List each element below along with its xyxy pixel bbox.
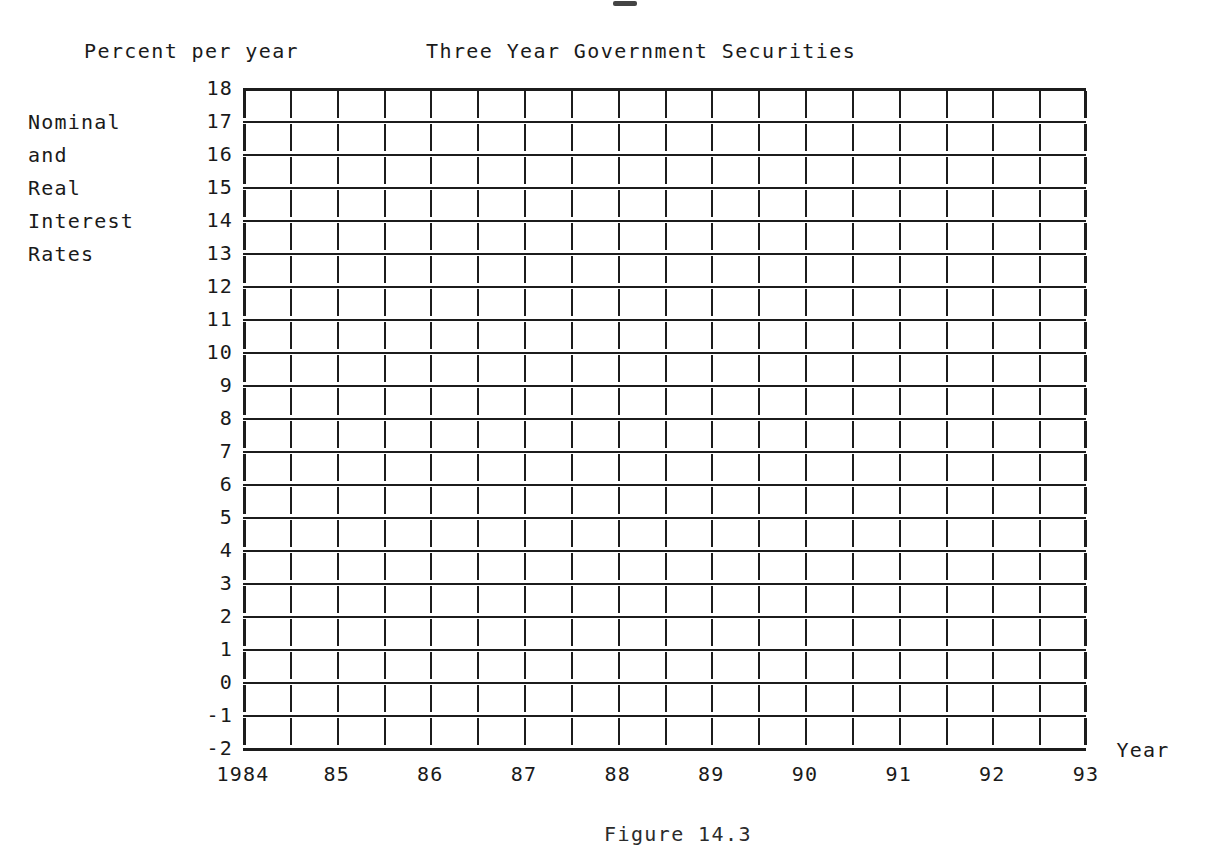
y-axis-tick-label: 16 (175, 142, 233, 166)
gridline-vertical-segment (852, 355, 854, 382)
gridline-vertical-segment (758, 619, 760, 646)
gridline-vertical-segment (337, 190, 339, 217)
x-axis-tick-label: 93 (1073, 762, 1099, 786)
gridline-vertical-segment (243, 685, 246, 712)
gridline-vertical-segment (290, 355, 292, 382)
gridline-vertical-segment (618, 685, 620, 712)
gridline-vertical-segment (711, 685, 713, 712)
gridline-horizontal (243, 715, 1086, 717)
gridline-vertical-segment (992, 256, 994, 283)
gridline-vertical-segment (243, 553, 246, 580)
gridline-vertical-segment (571, 388, 573, 415)
gridline-vertical-segment (1084, 223, 1087, 250)
gridline-vertical-segment (430, 223, 432, 250)
gridline-vertical-segment (571, 586, 573, 613)
gridline-vertical-segment (946, 190, 948, 217)
gridline-vertical-segment (758, 355, 760, 382)
y-axis-tick-label: 3 (175, 571, 233, 595)
gridline-vertical-segment (1084, 718, 1087, 745)
gridline-vertical-segment (1084, 619, 1087, 646)
gridline-vertical-segment (1084, 289, 1087, 316)
gridline-vertical-segment (571, 454, 573, 481)
gridline-vertical-segment (1039, 520, 1041, 547)
gridline-vertical-segment (665, 157, 667, 184)
gridline-vertical-segment (805, 223, 807, 250)
gridline-horizontal (243, 121, 1086, 123)
gridline-vertical-segment (665, 652, 667, 679)
y-axis-tick-label: 7 (175, 439, 233, 463)
gridline-vertical-segment (946, 355, 948, 382)
gridline-vertical-segment (852, 322, 854, 349)
gridline-vertical-segment (243, 520, 246, 547)
gridline-horizontal (243, 748, 1086, 751)
gridline-vertical-segment (711, 388, 713, 415)
figure-caption: Figure 14.3 (604, 822, 752, 846)
gridline-vertical-segment (430, 487, 432, 514)
gridline-vertical-segment (946, 223, 948, 250)
gridline-vertical-segment (1039, 388, 1041, 415)
gridline-vertical-segment (243, 586, 246, 613)
gridline-vertical-segment (337, 355, 339, 382)
gridline-vertical-segment (618, 289, 620, 316)
gridline-vertical-segment (992, 487, 994, 514)
gridline-vertical-segment (711, 454, 713, 481)
gridline-vertical-segment (243, 487, 246, 514)
gridline-vertical-segment (852, 553, 854, 580)
gridline-vertical-segment (430, 718, 432, 745)
gridline-vertical-segment (524, 553, 526, 580)
gridline-vertical-segment (946, 487, 948, 514)
gridline-vertical-segment (571, 685, 573, 712)
gridline-vertical-segment (899, 718, 901, 745)
gridline-vertical-segment (946, 520, 948, 547)
gridline-vertical-segment (477, 586, 479, 613)
gridline-vertical-segment (477, 553, 479, 580)
gridline-horizontal (243, 319, 1086, 321)
gridline-vertical-segment (290, 454, 292, 481)
gridline-vertical-segment (992, 454, 994, 481)
gridline-vertical-segment (290, 586, 292, 613)
gridline-vertical-segment (571, 520, 573, 547)
gridline-vertical-segment (992, 619, 994, 646)
gridline-vertical-segment (1084, 355, 1087, 382)
gridline-vertical-segment (805, 355, 807, 382)
gridline-vertical-segment (758, 256, 760, 283)
gridline-vertical-segment (1039, 619, 1041, 646)
gridline-horizontal (243, 286, 1086, 288)
gridline-vertical-segment (852, 685, 854, 712)
gridline-vertical-segment (337, 619, 339, 646)
gridline-vertical-segment (899, 454, 901, 481)
gridline-vertical-segment (899, 586, 901, 613)
gridline-vertical-segment (477, 619, 479, 646)
gridline-vertical-segment (477, 256, 479, 283)
x-axis-name: Year (1117, 738, 1170, 762)
side-caption-line: Interest (28, 205, 134, 238)
gridline-vertical-segment (852, 586, 854, 613)
gridline-vertical-segment (899, 223, 901, 250)
gridline-vertical-segment (711, 553, 713, 580)
gridline-vertical-segment (711, 190, 713, 217)
gridline-vertical-segment (758, 652, 760, 679)
gridline-vertical-segment (899, 388, 901, 415)
gridline-vertical-segment (524, 388, 526, 415)
gridline-vertical-segment (899, 553, 901, 580)
gridline-vertical-segment (477, 190, 479, 217)
y-axis-tick-label: -2 (175, 736, 233, 760)
gridline-vertical-segment (758, 520, 760, 547)
gridline-vertical-segment (711, 124, 713, 151)
gridline-vertical-segment (805, 652, 807, 679)
gridline-vertical-segment (805, 388, 807, 415)
gridline-vertical-segment (430, 619, 432, 646)
gridline-vertical-segment (1084, 91, 1087, 118)
y-axis-tick-label: 5 (175, 505, 233, 529)
gridline-vertical-segment (430, 520, 432, 547)
gridline-vertical-segment (290, 718, 292, 745)
gridline-vertical-segment (992, 223, 994, 250)
gridline-vertical-segment (618, 553, 620, 580)
gridline-vertical-segment (1039, 685, 1041, 712)
gridline-vertical-segment (1039, 718, 1041, 745)
gridline-vertical-segment (337, 685, 339, 712)
gridline-vertical-segment (524, 586, 526, 613)
gridline-vertical-segment (805, 685, 807, 712)
gridline-vertical-segment (243, 652, 246, 679)
